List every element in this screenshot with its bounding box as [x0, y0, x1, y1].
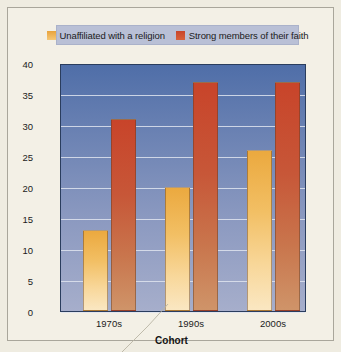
orange-swatch-icon	[47, 31, 56, 40]
bar-strong-members-1970s	[111, 119, 136, 311]
bar-group-1970s	[83, 65, 136, 311]
y-tick-label: 10	[9, 245, 33, 256]
chart-figure: Unaffiliated with a religion Strong memb…	[7, 7, 334, 341]
plot-area	[60, 64, 306, 312]
legend-label-unaffiliated: Unaffiliated with a religion	[60, 30, 165, 41]
x-axis-title: Cohort	[8, 335, 335, 346]
bar-strong-members-2000s	[275, 82, 300, 311]
gridline	[61, 312, 305, 313]
x-tick-label-2000s: 2000s	[238, 318, 308, 329]
y-tick-label: 40	[9, 59, 33, 70]
bar-unaffiliated-1990s	[165, 187, 190, 311]
bar-group-2000s	[247, 65, 300, 311]
x-tick-label-1970s: 1970s	[74, 318, 144, 329]
bar-group-1990s	[165, 65, 218, 311]
legend-label-strong-members: Strong members of their faith	[189, 30, 309, 41]
y-tick-label: 30	[9, 121, 33, 132]
chart-legend: Unaffiliated with a religion Strong memb…	[56, 25, 299, 45]
y-tick-label: 5	[9, 276, 33, 287]
legend-entry-unaffiliated: Unaffiliated with a religion	[47, 30, 165, 41]
bar-strong-members-1990s	[193, 82, 218, 311]
y-tick-label: 15	[9, 214, 33, 225]
y-tick-label: 0	[9, 307, 33, 318]
y-tick-label: 20	[9, 183, 33, 194]
red-swatch-icon	[176, 31, 185, 40]
legend-entry-strong-members: Strong members of their faith	[176, 30, 309, 41]
x-tick-label-1990s: 1990s	[156, 318, 226, 329]
bar-unaffiliated-2000s	[247, 150, 272, 311]
bar-unaffiliated-1970s	[83, 230, 108, 311]
y-tick-label: 35	[9, 90, 33, 101]
y-tick-label: 25	[9, 152, 33, 163]
